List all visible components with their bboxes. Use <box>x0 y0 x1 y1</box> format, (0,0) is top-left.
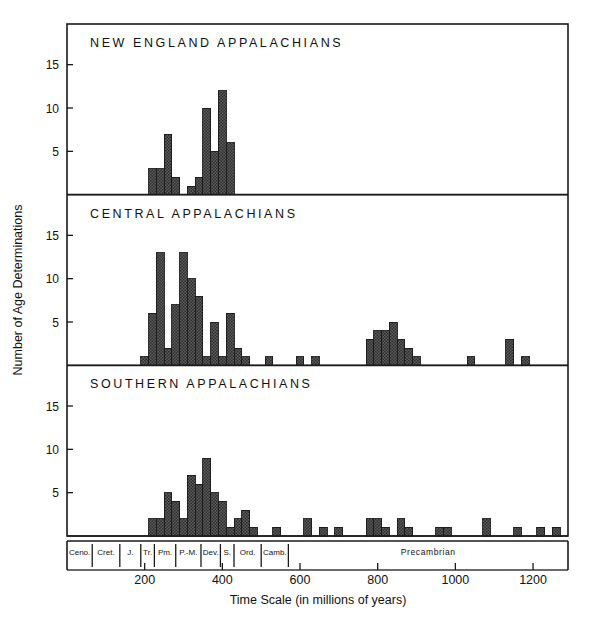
histogram-bar <box>366 519 374 536</box>
histogram-bar <box>156 253 164 366</box>
period-label-dev: Dev. <box>203 548 219 557</box>
histogram-bar <box>296 357 304 366</box>
histogram-bar <box>187 279 195 366</box>
histogram-bar <box>382 527 390 536</box>
y-tick-label: 5 <box>52 486 59 500</box>
x-tick-label: 400 <box>212 573 233 587</box>
histogram-bar <box>195 177 203 194</box>
histogram-bar <box>172 501 180 536</box>
period-label-ceno: Ceno. <box>69 548 90 557</box>
histogram-bar <box>265 357 273 366</box>
y-tick-label: 15 <box>46 229 60 243</box>
histogram-bar <box>444 527 452 536</box>
histogram-bar <box>405 527 413 536</box>
histogram-bar <box>203 108 211 195</box>
histogram-bar <box>156 519 164 536</box>
period-label-s: S. <box>223 548 231 557</box>
y-tick-label: 15 <box>46 58 60 72</box>
y-tick-label: 5 <box>52 316 59 330</box>
panels-layer <box>67 91 568 536</box>
histogram-bar <box>195 296 203 365</box>
histogram-bar <box>164 348 172 365</box>
histogram-bar <box>195 484 203 536</box>
histogram-bar <box>180 519 188 536</box>
period-label-ord: Ord. <box>240 548 256 557</box>
histogram-bar <box>149 313 157 365</box>
y-tick-label: 15 <box>46 400 60 414</box>
histogram-bar <box>180 253 188 366</box>
histogram-bar <box>319 527 327 536</box>
histogram-bar <box>218 357 226 366</box>
histogram-bar <box>172 305 180 366</box>
panel-title-central: CENTRAL APPALACHIANS <box>90 207 298 221</box>
histogram-bar <box>164 134 172 195</box>
histogram-bar <box>467 357 475 366</box>
histogram-bar <box>226 527 234 536</box>
histogram-bar <box>218 501 226 536</box>
histogram-southern <box>67 458 568 536</box>
y-axis-layer: 510155101551015 <box>46 58 73 500</box>
period-label-tr: Tr. <box>143 548 152 557</box>
histogram-central <box>67 253 568 366</box>
histogram-bar <box>226 313 234 365</box>
histogram-bar <box>149 519 157 536</box>
period-label-pm: P.-M. <box>179 548 197 557</box>
histogram-bar <box>304 519 312 536</box>
x-tick-label: 1200 <box>519 573 547 587</box>
histogram-bar <box>156 169 164 195</box>
histogram-bar <box>521 357 529 366</box>
histogram-bar <box>242 510 250 536</box>
histogram-bar <box>273 527 281 536</box>
histogram-bar <box>211 493 219 536</box>
histogram-bar <box>537 527 545 536</box>
x-tick-label: 600 <box>290 573 311 587</box>
y-tick-label: 5 <box>52 145 59 159</box>
histogram-bar <box>211 322 219 365</box>
x-axis-layer: 20040060080010001200Ceno.Cret.J.Tr.Pm.P.… <box>67 541 568 587</box>
histogram-bar <box>226 143 234 195</box>
histogram-bar <box>366 339 374 365</box>
period-label-j: J. <box>127 548 133 557</box>
histogram-bar <box>203 458 211 536</box>
histogram-bar <box>382 331 390 366</box>
x-tick-label: 200 <box>134 573 155 587</box>
x-tick-label: 1000 <box>441 573 469 587</box>
histogram-bar <box>250 527 258 536</box>
y-tick-label: 10 <box>46 102 60 116</box>
period-label-pm: Pm. <box>158 548 172 557</box>
histogram-bar <box>187 186 195 195</box>
histogram-bar <box>211 151 219 194</box>
histogram-bar <box>172 177 180 194</box>
period-label-cret: Cret. <box>97 548 114 557</box>
x-axis-title: Time Scale (in millions of years) <box>230 593 407 607</box>
histogram-bar <box>389 322 397 365</box>
plot-frame <box>67 24 568 536</box>
histogram-bar <box>149 169 157 195</box>
histogram-bar <box>203 357 211 366</box>
histogram-bar <box>552 527 560 536</box>
y-axis-title: Number of Age Determinations <box>11 205 25 376</box>
x-tick-label: 800 <box>367 573 388 587</box>
frame-layer <box>67 24 568 536</box>
panel-title-southern: SOUTHERN APPALACHIANS <box>90 377 312 391</box>
histogram-bar <box>506 339 514 365</box>
histogram-bar <box>234 348 242 365</box>
period-label-precambrian: Precambrian <box>401 547 456 557</box>
histogram-bar <box>374 519 382 536</box>
histogram-bar <box>234 519 242 536</box>
histogram-bar <box>413 357 421 366</box>
histogram-bar <box>405 348 413 365</box>
histogram-bar <box>312 357 320 366</box>
histogram-bar <box>397 519 405 536</box>
histogram-bar <box>397 339 405 365</box>
histogram-bar <box>242 357 250 366</box>
histogram-bar <box>335 527 343 536</box>
panel-title-new-england: NEW ENGLAND APPALACHIANS <box>90 36 343 50</box>
y-tick-label: 10 <box>46 443 60 457</box>
y-tick-label: 10 <box>46 272 60 286</box>
histogram-bar <box>187 475 195 536</box>
histogram-bar <box>436 527 444 536</box>
histogram-bar <box>218 91 226 195</box>
histogram-bar <box>483 519 491 536</box>
histogram-bar <box>164 493 172 536</box>
